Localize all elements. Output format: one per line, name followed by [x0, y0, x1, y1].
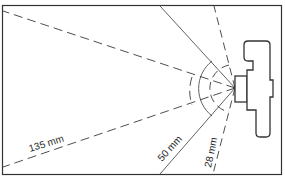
diagram-canvas: 135 mm 50 mm 28 mm — [0, 0, 285, 177]
angle-of-view-diagram: 135 mm 50 mm 28 mm — [0, 0, 285, 177]
